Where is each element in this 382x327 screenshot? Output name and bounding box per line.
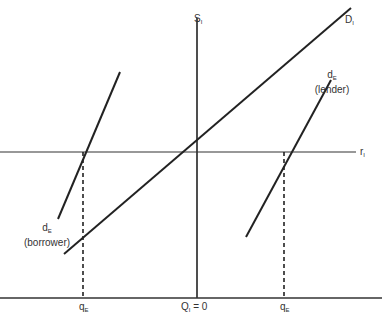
- q-center-label: QI = 0: [181, 301, 207, 316]
- diagram-canvas: [0, 0, 382, 327]
- demand-label: DI: [345, 14, 354, 29]
- q-right-label: qE: [280, 301, 290, 316]
- demand-line: [64, 8, 351, 254]
- rate-label: rI: [360, 146, 365, 161]
- borrower-demand-line: [58, 72, 120, 219]
- lender-label: dE (lender): [314, 69, 350, 95]
- q-left-label: qE: [79, 301, 89, 316]
- lender-demand-line: [246, 80, 331, 237]
- supply-label: SI: [194, 13, 202, 28]
- borrower-label: dE (borrower): [19, 222, 75, 248]
